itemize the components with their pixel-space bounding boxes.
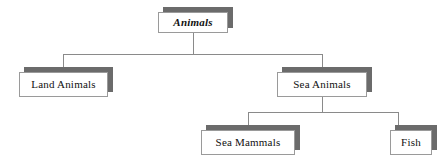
- node-fish-face: Fish: [390, 130, 432, 155]
- connector-level1-bus: [63, 54, 323, 55]
- node-sea-mammals-face: Sea Mammals: [201, 130, 295, 155]
- diagram-canvas: Animals Land Animals Sea Animals Sea Mam…: [0, 0, 441, 165]
- node-land-animals-face: Land Animals: [19, 72, 108, 97]
- connector-sea-animals-stem: [322, 97, 323, 112]
- node-sea-animals-label: Sea Animals: [293, 79, 351, 90]
- node-fish-label: Fish: [401, 137, 421, 148]
- node-sea-animals[interactable]: Sea Animals: [277, 72, 367, 97]
- node-fish[interactable]: Fish: [390, 130, 432, 155]
- node-animals[interactable]: Animals: [158, 12, 228, 33]
- node-sea-mammals-label: Sea Mammals: [216, 137, 281, 148]
- node-animals-face: Animals: [158, 12, 228, 33]
- connector-animals-stem: [193, 33, 194, 54]
- node-animals-label: Animals: [173, 17, 212, 28]
- node-land-animals-label: Land Animals: [31, 79, 95, 90]
- node-sea-mammals[interactable]: Sea Mammals: [201, 130, 295, 155]
- connector-level2-bus: [248, 112, 399, 113]
- node-land-animals[interactable]: Land Animals: [19, 72, 108, 97]
- node-sea-animals-face: Sea Animals: [277, 72, 367, 97]
